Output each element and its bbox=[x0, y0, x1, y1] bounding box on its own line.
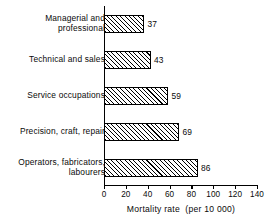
x-tick-label-0: 0 bbox=[102, 190, 107, 200]
x-tick-mark-40 bbox=[148, 186, 149, 189]
x-tick-label-100: 100 bbox=[206, 190, 220, 200]
category-label-service: Service occupations bbox=[5, 91, 105, 101]
x-tick-mark-80 bbox=[191, 186, 192, 189]
x-tick-label-140: 140 bbox=[250, 190, 264, 200]
x-tick-mark-120 bbox=[235, 186, 236, 189]
category-label-operators: Operators, fabricators, labourers bbox=[5, 158, 105, 177]
bar-precision bbox=[104, 123, 179, 141]
x-tick-mark-60 bbox=[170, 186, 171, 189]
x-tick-mark-100 bbox=[213, 186, 214, 189]
x-tick-mark-20 bbox=[126, 186, 127, 189]
bar-value-managerial: 37 bbox=[147, 19, 157, 29]
x-tick-label-40: 40 bbox=[143, 190, 152, 200]
x-tick-label-80: 80 bbox=[187, 190, 196, 200]
bar-managerial bbox=[104, 15, 144, 33]
x-axis-title: Mortality rate (per 10 000) bbox=[104, 204, 258, 214]
x-tick-mark-140 bbox=[257, 186, 258, 189]
category-label-precision: Precision, craft, repair bbox=[5, 127, 105, 137]
x-tick-label-120: 120 bbox=[228, 190, 242, 200]
bar-service bbox=[104, 87, 168, 105]
bar-value-precision: 69 bbox=[182, 127, 192, 137]
bar-value-service: 59 bbox=[171, 91, 181, 101]
x-tick-label-60: 60 bbox=[165, 190, 174, 200]
bar-technical bbox=[104, 51, 151, 69]
bar-value-technical: 43 bbox=[154, 55, 164, 65]
x-tick-label-20: 20 bbox=[121, 190, 130, 200]
category-label-technical: Technical and sales bbox=[5, 55, 105, 65]
bar-operators bbox=[104, 159, 198, 177]
bar-chart: Managerial and professional Technical an… bbox=[0, 0, 269, 224]
bar-value-operators: 86 bbox=[201, 163, 211, 173]
y-axis-line bbox=[104, 6, 105, 186]
x-tick-mark-0 bbox=[104, 186, 105, 189]
category-label-managerial: Managerial and professional bbox=[5, 14, 105, 33]
